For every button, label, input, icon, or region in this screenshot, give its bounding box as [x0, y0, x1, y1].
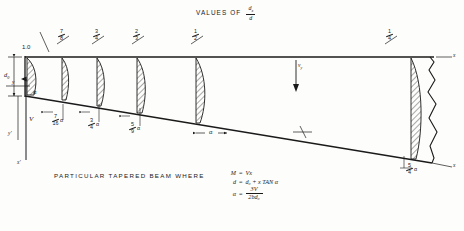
bottom-dimension-arrows: [44, 104, 412, 168]
bottom-label-fraction: 3 4 α: [88, 118, 99, 131]
eq-relation: =: [239, 190, 243, 197]
load-label-vy: vy: [298, 62, 302, 70]
stress-profile: [196, 58, 205, 123]
alpha-label-mid: α: [209, 129, 212, 135]
x-axis-label-bottom: x: [453, 162, 455, 168]
frac-den: 16: [53, 121, 59, 126]
stress-profile: [411, 58, 421, 159]
frac-suffix: α: [414, 166, 417, 172]
eq-fraction: 3V 2bd₀: [246, 186, 263, 201]
frac-den: 2: [194, 36, 197, 41]
depth-label: d0: [4, 71, 9, 80]
top-label-fraction: 1 2: [192, 29, 199, 42]
bottom-label-fraction: 7 16 α: [52, 114, 63, 127]
alpha-label-left: α: [33, 89, 36, 95]
x-axis-right: [432, 57, 452, 167]
eq-frac-num: 3V: [251, 186, 258, 193]
stress-profile: [97, 58, 104, 106]
frac-suffix: α: [137, 125, 140, 131]
frac-den: 4: [408, 170, 411, 175]
eq-rhs: Vx: [246, 169, 253, 176]
chart-title: VALUES OF dx d: [196, 5, 255, 21]
equation-row: α = 3V 2bd₀: [228, 186, 278, 201]
x-axis-label-top: x: [453, 52, 455, 58]
stress-profile: [62, 58, 69, 100]
top-label-fraction: 7 8: [58, 29, 65, 42]
x-prime-axis-label: x': [17, 159, 21, 165]
eq-lhs: d: [228, 178, 236, 185]
bottom-label-fraction: 5 9 α: [129, 122, 140, 135]
frac-den: 4: [388, 36, 391, 41]
y-prime-axis-label: y': [8, 130, 12, 136]
frac-den: 9: [131, 129, 134, 134]
frac-den: 4: [90, 125, 93, 130]
depth-dimension: [8, 57, 22, 96]
eq-lhs: α: [228, 190, 236, 197]
top-label-decimal: 1.0: [22, 44, 30, 50]
top-label-fraction: 2 3: [133, 29, 140, 42]
frac-den: 3: [135, 36, 138, 41]
title-prefix: VALUES OF: [196, 9, 241, 16]
title-fraction: dx d: [246, 5, 255, 21]
eq-relation: =: [239, 178, 243, 185]
angle-tick-marker: [293, 126, 312, 138]
eq-lhs: M: [228, 169, 236, 176]
eq-rhs: d₀ + x TAN α: [246, 178, 279, 185]
beam-broken-edge: [428, 57, 437, 163]
drawing-canvas: VALUES OF dx d 1.0 7 8 3 4 2 3 1 2 1 4 d…: [0, 0, 464, 231]
title-frac-den: d: [249, 15, 252, 21]
top-label-fraction: 3 4: [93, 29, 100, 42]
depth-label-sub: 0: [7, 75, 9, 80]
frac-suffix: α: [96, 121, 99, 127]
y-axis-label: y: [12, 79, 14, 85]
equation-row: M = Vx: [228, 168, 278, 177]
eq-frac-den: 2bd₀: [248, 194, 259, 201]
stress-profile: [137, 58, 145, 113]
frac-suffix: α: [60, 117, 63, 123]
frac-den: 4: [95, 36, 98, 41]
frac-den: 8: [60, 36, 63, 41]
shear-force-label: V: [29, 115, 33, 123]
stress-profile-group: [27, 58, 421, 159]
title-frac-num-sub: x: [251, 8, 253, 13]
eq-relation: =: [239, 169, 243, 176]
figure-caption: PARTICULAR TAPERED BEAM WHERE: [54, 172, 205, 179]
beam-bottom-chord-taper: [25, 96, 432, 163]
bottom-label-fraction: 5 4 α: [406, 163, 417, 176]
equations-block: M = Vx d = d₀ + x TAN α α = 3V 2bd₀: [228, 168, 278, 201]
top-label-fraction: 1 4: [386, 29, 393, 42]
